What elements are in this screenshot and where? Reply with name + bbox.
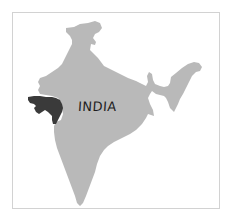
gujarat-region[interactable] [28, 96, 63, 124]
india-landmass [38, 21, 202, 206]
india-map [0, 0, 234, 224]
country-label: INDIA [77, 99, 117, 114]
